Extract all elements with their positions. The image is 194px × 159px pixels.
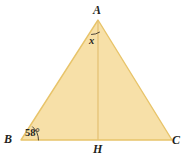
geometry-figure: A B C H x 58° (0, 0, 194, 159)
angle-label-x: x (89, 36, 94, 47)
vertex-label-a: A (93, 4, 101, 16)
vertex-label-b: B (4, 133, 12, 145)
angle-label-58-degrees: 58° (25, 128, 40, 139)
vertex-label-h: H (93, 143, 102, 155)
triangle-abc-shape (21, 20, 172, 140)
vertex-label-c: C (172, 134, 180, 146)
